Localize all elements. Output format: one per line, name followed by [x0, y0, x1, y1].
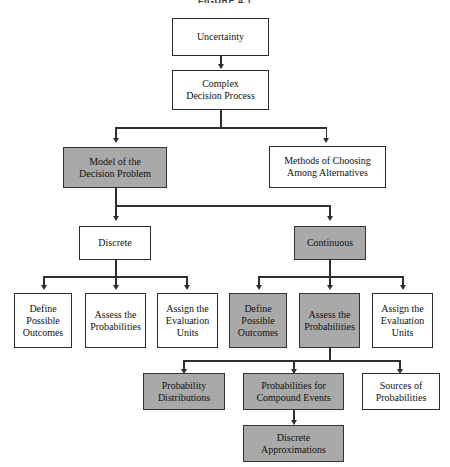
flowchart-figure: FIGURE 4.1 Uncertainty Comp [0, 0, 450, 467]
node-complex-decision-process-label: Complex Decision Process [175, 78, 266, 102]
node-model-of-decision-problem-label: Model of the Decision Problem [66, 156, 164, 180]
arrow-into-model-of-decision-problem [113, 138, 119, 143]
node-uncertainty-label: Uncertainty [175, 31, 266, 43]
node-continuous[interactable]: Continuous [294, 226, 366, 260]
node-sources-of-probabilities-label: Sources of Probabilities [365, 380, 437, 404]
node-continuous-define-possible-outcomes[interactable]: Define Possible Outcomes [229, 293, 287, 348]
arrow-into-continuous-assess-the-probabilities [327, 285, 333, 290]
node-discrete-define-possible-outcomes[interactable]: Define Possible Outcomes [14, 293, 72, 348]
node-continuous-assign-the-evaluation-units-label: Assign the Evaluation Units [375, 303, 430, 339]
node-model-of-decision-problem[interactable]: Model of the Decision Problem [63, 147, 167, 188]
node-discrete-assign-the-evaluation-units-label: Assign the Evaluation Units [160, 303, 215, 339]
node-sources-of-probabilities[interactable]: Sources of Probabilities [362, 373, 440, 410]
figure-title: FIGURE 4.1 [0, 0, 450, 3]
connector-complex-stem [220, 110, 222, 128]
arrow-into-continuous-assign-the-evaluation-units [400, 285, 406, 290]
node-discrete-define-possible-outcomes-label: Define Possible Outcomes [17, 303, 69, 339]
node-probabilities-for-compound-events[interactable]: Probabilities for Compound Events [243, 373, 344, 410]
connector-level3-bus [115, 205, 331, 207]
connector-level2-bus [115, 127, 327, 129]
arrow-into-discrete [113, 216, 119, 221]
arrow-into-continuous [327, 216, 333, 221]
node-methods-of-choosing-label: Methods of Choosing Among Alternatives [272, 155, 383, 179]
arrow-into-discrete-define-possible-outcomes [41, 285, 47, 290]
node-probability-distributions-label: Probability Distributions [146, 380, 222, 404]
node-discrete[interactable]: Discrete [79, 226, 151, 260]
connector-discrete-stem [115, 260, 117, 277]
node-discrete-assess-the-probabilities[interactable]: Assess the Probabilities [85, 293, 146, 348]
node-continuous-define-possible-outcomes-label: Define Possible Outcomes [232, 303, 284, 339]
node-discrete-approximations-label: Discrete Approximations [246, 432, 341, 456]
node-continuous-label: Continuous [297, 237, 363, 249]
node-discrete-label: Discrete [82, 237, 148, 249]
arrow-into-methods-of-choosing [323, 138, 329, 143]
node-uncertainty[interactable]: Uncertainty [172, 18, 269, 56]
connector-level5-bus [183, 360, 399, 362]
node-probability-distributions[interactable]: Probability Distributions [143, 373, 225, 410]
node-discrete-assign-the-evaluation-units[interactable]: Assign the Evaluation Units [157, 293, 218, 348]
node-continuous-assess-the-probabilities-label: Assess the Probabilities [302, 309, 357, 333]
node-complex-decision-process[interactable]: Complex Decision Process [172, 70, 269, 110]
node-methods-of-choosing[interactable]: Methods of Choosing Among Alternatives [269, 146, 386, 188]
connector-continuous-stem [329, 260, 331, 277]
arrow-into-continuous-define-possible-outcomes [256, 285, 262, 290]
arrow-into-complex-decision-process [218, 64, 224, 69]
node-continuous-assign-the-evaluation-units[interactable]: Assign the Evaluation Units [372, 293, 433, 348]
arrow-into-discrete-assess-the-probabilities [113, 285, 119, 290]
node-probabilities-for-compound-events-label: Probabilities for Compound Events [246, 380, 341, 404]
node-discrete-assess-the-probabilities-label: Assess the Probabilities [88, 309, 143, 333]
node-discrete-approximations[interactable]: Discrete Approximations [243, 425, 344, 462]
arrow-into-discrete-assign-the-evaluation-units [184, 285, 190, 290]
node-continuous-assess-the-probabilities[interactable]: Assess the Probabilities [299, 293, 360, 348]
connector-model-stem [115, 188, 117, 206]
